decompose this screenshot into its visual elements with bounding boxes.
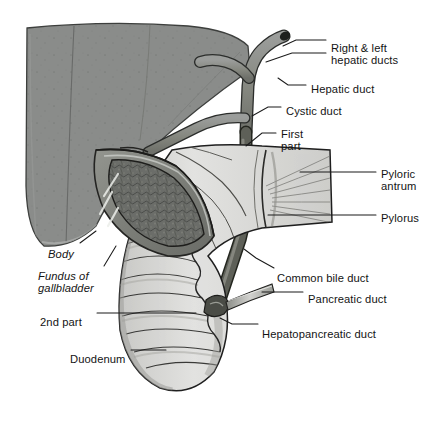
label-hepatic-duct: Hepatic duct <box>311 83 374 95</box>
anatomy-figure: Right & left hepatic ductsHepatic ductCy… <box>0 0 437 434</box>
leader-left-hepatic <box>266 53 326 62</box>
leader-right-hepatic <box>283 40 326 46</box>
label-2nd-part: 2nd part <box>40 316 82 328</box>
label-hepatopancreatic-duct: Hepatopancreatic duct <box>262 328 376 340</box>
leader-cystic-duct <box>252 107 281 116</box>
label-fundus-of-gallbladder: Fundus of gallbladder <box>38 270 94 295</box>
pancreatic-duct <box>226 284 274 310</box>
hepatopancreatic-ampulla <box>204 295 229 316</box>
label-pylorus: Pylorus <box>381 212 419 224</box>
leader-hepatic-duct <box>278 78 306 85</box>
label-cystic-duct: Cystic duct <box>286 105 342 117</box>
label-duodenum: Duodenum <box>70 353 126 365</box>
leader-fundus <box>104 246 116 266</box>
label-first-part: First part <box>281 128 303 153</box>
label-pyloric-antrum: Pyloric antrum <box>381 168 416 193</box>
label-right-left-hepatic-ducts: Right & left hepatic ducts <box>331 42 398 67</box>
label-body: Body <box>48 248 74 260</box>
leader-common-bile-duct <box>244 249 274 268</box>
label-common-bile-duct: Common bile duct <box>277 272 369 284</box>
label-pancreatic-duct: Pancreatic duct <box>308 293 387 305</box>
